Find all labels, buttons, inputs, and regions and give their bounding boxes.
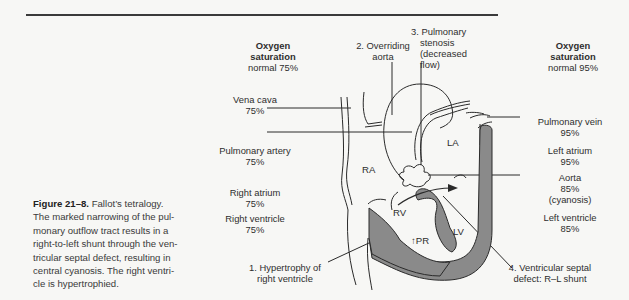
defect-2-label: 2. Overriding aorta — [348, 40, 418, 62]
label-ra: RA — [362, 164, 375, 175]
left-header-line2: saturation — [240, 51, 306, 62]
defect-3-label: 3. Pulmonary stenosis (decreased flow) — [411, 26, 471, 70]
right-header-line3: normal 95% — [540, 62, 606, 73]
caption-line-5: central cyanosis. The right ventri- — [33, 265, 174, 276]
defect-2-line2: aorta — [348, 51, 418, 62]
aorta-value: 85% — [540, 183, 600, 194]
pulmonary-artery-value: 75% — [210, 156, 300, 167]
label-rv: RV — [393, 207, 406, 218]
pulmonary-vein-value: 95% — [530, 127, 610, 138]
aorta-label: Aorta 85% (cyanosis) — [540, 172, 600, 205]
left-ventricle-label: Left ventricle 85% — [535, 212, 605, 234]
right-header: Oxygen saturation normal 95% — [540, 40, 606, 73]
pulmonary-vein-label: Pulmonary vein 95% — [530, 116, 610, 138]
label-lv: LV — [453, 226, 464, 237]
right-atrium-value: 75% — [220, 198, 290, 209]
vena-cava-value: 75% — [220, 105, 290, 116]
left-atrium-label: Left atrium 95% — [540, 145, 600, 167]
left-header-line1: Oxygen — [240, 40, 306, 51]
pulmonary-vein-name: Pulmonary vein — [530, 116, 610, 127]
label-la: LA — [447, 137, 459, 148]
defect-4-line1: 4. Ventricular septal — [505, 262, 595, 273]
aorta-note: (cyanosis) — [540, 194, 600, 205]
right-header-line1: Oxygen — [540, 40, 606, 51]
pulmonary-artery-label: Pulmonary artery 75% — [210, 145, 300, 167]
right-header-line2: saturation — [540, 51, 606, 62]
right-ventricle-name: Right ventricle — [215, 213, 295, 224]
pulmonary-artery-name: Pulmonary artery — [210, 145, 300, 156]
label-pr: ↑PR — [411, 235, 429, 246]
vena-cava-name: Vena cava — [220, 94, 290, 105]
figure-caption: Figure 21–8. Fallot’s tetralogy. The mar… — [33, 197, 183, 291]
right-atrium-label: Right atrium 75% — [220, 187, 290, 209]
caption-line-4: tricular septal defect, resulting in — [33, 252, 171, 263]
caption-line-3: right-to-left shunt through the ven- — [33, 238, 178, 249]
defect-3-line2: stenosis — [411, 37, 471, 48]
left-ventricle-name: Left ventricle — [535, 212, 605, 223]
left-ventricle-value: 85% — [535, 223, 605, 234]
caption-line-6: cle is hypertrophied. — [33, 278, 119, 289]
defect-4-line2: defect: R–L shunt — [505, 273, 595, 284]
defect-3-line1: 3. Pulmonary — [411, 26, 471, 37]
defect-4-label: 4. Ventricular septal defect: R–L shunt — [505, 262, 595, 284]
figure-caption-first: Fallot’s tetralogy. — [92, 198, 164, 209]
defect-1-line1: 1. Hypertrophy of — [245, 262, 325, 273]
left-atrium-value: 95% — [540, 156, 600, 167]
vena-cava-label: Vena cava 75% — [220, 94, 290, 116]
left-atrium-name: Left atrium — [540, 145, 600, 156]
left-header: Oxygen saturation normal 75% — [240, 40, 306, 73]
caption-line-1: The marked narrowing of the pul- — [33, 211, 174, 222]
defect-2-line1: 2. Overriding — [348, 40, 418, 51]
defect-1-label: 1. Hypertrophy of right ventricle — [245, 262, 325, 284]
right-atrium-name: Right atrium — [220, 187, 290, 198]
right-ventricle-label: Right ventricle 75% — [215, 213, 295, 235]
defect-3-line3: (decreased — [411, 48, 471, 59]
caption-line-2: monary outflow tract results in a — [33, 225, 168, 236]
left-header-line3: normal 75% — [240, 62, 306, 73]
defect-1-line2: right ventricle — [245, 273, 325, 284]
figure-number: Figure 21–8. — [33, 198, 89, 209]
defect-3-line4: flow) — [411, 59, 471, 70]
right-ventricle-value: 75% — [215, 224, 295, 235]
aorta-name: Aorta — [540, 172, 600, 183]
